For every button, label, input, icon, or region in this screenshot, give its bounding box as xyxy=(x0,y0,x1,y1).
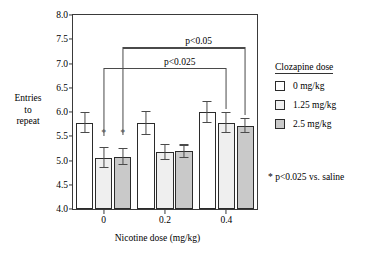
significance-label: p<0.025 xyxy=(164,57,195,67)
error-bar-stem xyxy=(245,118,246,134)
error-bar-cap-bottom xyxy=(142,134,151,135)
legend-item-label: 0 mg/kg xyxy=(293,81,324,91)
bar xyxy=(237,126,255,209)
error-bar-cap-bottom xyxy=(241,132,250,133)
significance-bracket-tick-left xyxy=(122,47,123,134)
y-axis-tick-label: 4.0 xyxy=(56,204,73,214)
significance-bracket-line xyxy=(123,47,246,48)
bar xyxy=(156,152,174,209)
error-bar-cap-bottom xyxy=(80,132,89,133)
x-axis-tick-mark xyxy=(164,209,165,214)
significance-label: p<0.05 xyxy=(185,36,212,46)
bar xyxy=(199,112,217,209)
error-bar-cap-top xyxy=(142,111,151,112)
error-bar-cap-top xyxy=(99,147,108,148)
y-axis-tick-label: 6.5 xyxy=(56,83,73,93)
y-axis-label: Entries to repeat xyxy=(2,93,54,128)
legend-item[interactable]: 0 mg/kg xyxy=(275,81,371,91)
significance-bracket-tick-right xyxy=(245,47,246,114)
legend-item-label: 1.25 mg/kg xyxy=(293,100,336,110)
x-axis-tick-mark xyxy=(226,209,227,214)
significance-bracket-tick-left xyxy=(103,68,104,135)
error-bar-cap-bottom xyxy=(99,167,108,168)
legend-item[interactable]: 2.5 mg/kg xyxy=(275,119,371,129)
plot-area: 4.04.55.05.56.06.57.07.58.000.20.4**p<0.… xyxy=(72,14,258,210)
x-axis-tick-mark xyxy=(103,209,104,214)
error-bar-cap-bottom xyxy=(161,159,170,160)
bar xyxy=(175,151,193,209)
chart-figure: Entries to repeat 4.04.55.05.56.06.57.07… xyxy=(0,0,373,257)
legend-item-label: 2.5 mg/kg xyxy=(293,119,332,129)
y-axis-tick-label: 5.0 xyxy=(56,156,73,166)
legend: Clozapine dose 0 mg/kg1.25 mg/kg2.5 mg/k… xyxy=(275,56,371,138)
x-axis-tick-label: 0.4 xyxy=(220,215,232,225)
x-axis-tick-label: 0 xyxy=(101,215,106,225)
error-bar-stem xyxy=(207,101,208,122)
error-bar-cap-top xyxy=(241,118,250,119)
legend-items: 0 mg/kg1.25 mg/kg2.5 mg/kg xyxy=(275,81,371,129)
error-bar-stem xyxy=(145,111,146,135)
y-axis-label-line-3: repeat xyxy=(2,116,54,128)
error-bar-cap-top xyxy=(80,112,89,113)
y-axis-label-line-1: Entries xyxy=(2,93,54,105)
x-axis-label: Nicotine dose (mg/kg) xyxy=(55,233,260,243)
error-bar-stem xyxy=(122,148,123,165)
error-bar-stem xyxy=(103,147,104,167)
error-bar-cap-top xyxy=(222,112,231,113)
error-bar-cap-bottom xyxy=(118,164,127,165)
error-bar-stem xyxy=(84,112,85,133)
legend-title: Clozapine dose xyxy=(275,62,333,74)
x-axis-tick-label: 0.2 xyxy=(159,215,171,225)
bar xyxy=(76,123,94,209)
footnote: * p<0.025 vs. saline xyxy=(268,172,344,182)
error-bar-cap-top xyxy=(118,148,127,149)
y-axis-tick-label: 6.0 xyxy=(56,107,73,117)
bar xyxy=(137,123,155,209)
y-axis-label-line-2: to xyxy=(2,105,54,117)
significance-bracket-tick-right xyxy=(226,68,227,109)
plot-inner: 4.04.55.05.56.06.57.07.58.000.20.4**p<0.… xyxy=(73,15,257,209)
error-bar-stem xyxy=(164,144,165,160)
legend-swatch xyxy=(275,119,285,129)
error-bar-cap-bottom xyxy=(203,122,212,123)
legend-item[interactable]: 1.25 mg/kg xyxy=(275,100,371,110)
y-axis-tick-label: 7.5 xyxy=(56,34,73,44)
legend-swatch xyxy=(275,81,285,91)
error-bar-cap-bottom xyxy=(222,132,231,133)
y-axis-tick-label: 5.5 xyxy=(56,131,73,141)
y-axis-tick-label: 4.5 xyxy=(56,180,73,190)
bar xyxy=(218,123,236,209)
error-bar-cap-top xyxy=(161,144,170,145)
significance-bracket-line xyxy=(104,68,227,69)
y-axis-tick-label: 8.0 xyxy=(56,10,73,20)
error-bar-cap-top xyxy=(203,101,212,102)
legend-swatch xyxy=(275,100,285,110)
error-bar-stem xyxy=(226,112,227,133)
error-bar-cap-bottom xyxy=(180,157,189,158)
error-bar-cap-top xyxy=(180,144,189,145)
y-axis-tick-label: 7.0 xyxy=(56,59,73,69)
